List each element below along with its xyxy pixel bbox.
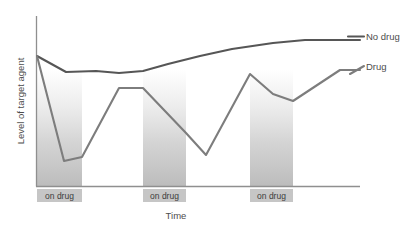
legend-label-drug: Drug <box>366 61 387 72</box>
drug-band-2 <box>143 70 186 186</box>
drug-band-1 <box>37 70 82 186</box>
y-axis-label: Level of target agent <box>15 57 26 144</box>
drug-band-label-2: on drug <box>150 191 179 201</box>
drug-bands-group <box>37 70 293 186</box>
drug-band-label-3: on drug <box>257 191 286 201</box>
drug-band-label-1: on drug <box>45 191 74 201</box>
x-axis-label: Time <box>166 210 187 221</box>
chart-figure: No drug Drug on drug on drug on drug Lev… <box>0 0 418 229</box>
drug-band-3 <box>250 70 293 186</box>
series-line-no-drug <box>37 40 360 73</box>
legend-label-no-drug: No drug <box>366 31 400 42</box>
chart-canvas: No drug Drug on drug on drug on drug Lev… <box>0 0 418 229</box>
